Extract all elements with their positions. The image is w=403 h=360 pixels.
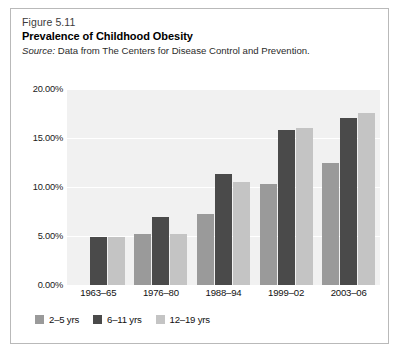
bar [296, 128, 313, 285]
bar [90, 237, 107, 285]
figure-card: Figure 5.11 Prevalence of Childhood Obes… [10, 8, 389, 344]
legend-swatch-icon [93, 315, 102, 324]
legend-label: 12–19 yrs [170, 314, 210, 325]
bar-chart: 0.00%5.00%10.00%15.00%20.00% 1963–651976… [11, 71, 388, 344]
y-axis-tick: 20.00% [33, 84, 63, 94]
x-axis-tick: 1963–65 [67, 287, 130, 298]
figure-number: Figure 5.11 [22, 16, 388, 29]
bar [358, 113, 375, 285]
legend-item: 2–5 yrs [35, 314, 79, 325]
y-axis-tick: 10.00% [33, 182, 63, 192]
y-axis: 0.00%5.00%10.00%15.00%20.00% [11, 89, 63, 285]
bar-group [255, 89, 318, 285]
x-axis-tick: 2003–06 [317, 287, 380, 298]
x-axis-tick: 1976–80 [130, 287, 193, 298]
gridline [67, 285, 380, 286]
legend-swatch-icon [35, 315, 44, 324]
legend-label: 6–11 yrs [107, 314, 141, 325]
figure-source: Source: Data from The Centers for Diseas… [22, 44, 388, 58]
x-axis-tick: 1999–02 [255, 287, 318, 298]
bar [278, 130, 295, 285]
source-text: Data from The Centers for Disease Contro… [55, 45, 310, 56]
bar [260, 184, 277, 285]
chart-legend: 2–5 yrs6–11 yrs12–19 yrs [35, 314, 210, 325]
bar [152, 217, 169, 285]
bar-group [192, 89, 255, 285]
bar [134, 234, 151, 285]
y-axis-tick: 15.00% [33, 133, 63, 143]
legend-label: 2–5 yrs [49, 314, 79, 325]
y-axis-tick: 5.00% [38, 231, 63, 241]
bar [108, 237, 125, 285]
source-label: Source: [22, 45, 55, 56]
bar [170, 234, 187, 285]
bar-group [317, 89, 380, 285]
legend-item: 12–19 yrs [156, 314, 210, 325]
legend-swatch-icon [156, 315, 165, 324]
bar [322, 163, 339, 285]
x-axis: 1963–651976–801988–941999–022003–06 [67, 287, 380, 298]
y-axis-tick: 0.00% [38, 280, 63, 290]
bar [215, 174, 232, 285]
bar [340, 118, 357, 285]
bar-group [67, 89, 130, 285]
bars-layer [67, 89, 380, 285]
bar [233, 182, 250, 285]
plot-area [67, 89, 380, 285]
figure-header: Figure 5.11 Prevalence of Childhood Obes… [11, 9, 388, 58]
bar [197, 214, 214, 285]
x-axis-tick: 1988–94 [192, 287, 255, 298]
bar-group [130, 89, 193, 285]
legend-item: 6–11 yrs [93, 314, 141, 325]
figure-title: Prevalence of Childhood Obesity [22, 29, 388, 44]
